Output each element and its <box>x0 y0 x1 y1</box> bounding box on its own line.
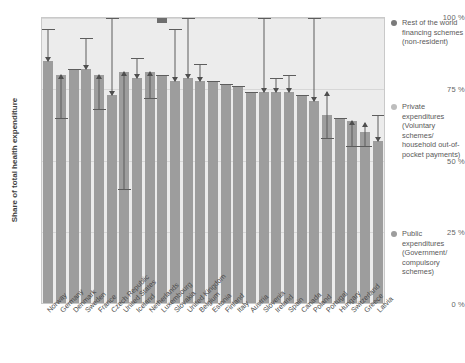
marker-arrowhead-up <box>362 122 368 127</box>
chart-root: 100 % 75 % 50 % 25 % 0 % Share of total … <box>0 0 465 363</box>
marker-arrowhead-up <box>147 71 153 76</box>
marker-cap <box>144 98 157 99</box>
marker-cap <box>68 69 81 70</box>
marker-cap <box>207 81 220 82</box>
marker-arrowhead-up <box>349 120 355 125</box>
bar-latvia[interactable] <box>373 141 383 303</box>
marker-cap <box>232 86 245 87</box>
legend-item-1[interactable]: Private expenditures (Voluntary schemes/… <box>391 102 465 160</box>
marker-cap <box>296 95 309 96</box>
bar-hungary[interactable] <box>335 118 345 303</box>
bar-finland[interactable] <box>221 84 231 303</box>
marker-arrowhead-down <box>185 74 191 79</box>
marker-arrowhead-up <box>121 71 127 76</box>
legend-swatch-icon <box>391 231 397 237</box>
bar-iceland[interactable] <box>132 78 142 303</box>
marker-cap <box>106 18 119 19</box>
marker-cap <box>182 18 195 19</box>
bar-canada[interactable] <box>297 95 307 303</box>
bar-sweden[interactable] <box>81 69 91 303</box>
marker-stem <box>263 18 264 92</box>
marker-cap <box>42 29 55 30</box>
bar-estonia[interactable] <box>208 81 218 303</box>
marker-arrowhead-down <box>261 88 267 93</box>
marker-arrowhead-down <box>109 91 115 96</box>
bar-switzerland[interactable] <box>347 121 357 303</box>
marker-cap <box>321 138 334 139</box>
marker-cap <box>80 38 93 39</box>
marker-arrowhead-down <box>311 97 317 102</box>
legend-swatch-icon <box>391 104 397 110</box>
marker-cap <box>346 146 359 147</box>
bar-united-kingdom[interactable] <box>183 78 193 303</box>
marker-stem <box>187 18 188 78</box>
marker-arrowhead-down <box>375 137 381 142</box>
legend-label: Private expenditures (Voluntary schemes/… <box>402 102 465 160</box>
marker-cap <box>55 118 68 119</box>
marker-cap <box>131 58 144 59</box>
marker-stem <box>61 75 62 118</box>
bar-poland[interactable] <box>309 101 319 303</box>
rest-of-world-segment-luxembourg <box>157 18 167 23</box>
marker-arrowhead-down <box>134 74 140 79</box>
gridline-100 <box>42 18 384 19</box>
marker-cap <box>118 189 131 190</box>
legend-label: Public expenditures (Government/ compuls… <box>402 229 465 277</box>
bar-czech-republic[interactable] <box>107 95 117 303</box>
bar-austria[interactable] <box>246 92 256 303</box>
marker-cap <box>372 115 384 116</box>
marker-cap <box>270 78 283 79</box>
y-tick-75: 75 % <box>429 85 465 94</box>
bar-slovenia[interactable] <box>259 92 269 303</box>
marker-stem <box>175 29 176 80</box>
marker-arrowhead-down <box>197 77 203 82</box>
bar-norway[interactable] <box>43 61 53 303</box>
legend-swatch-icon <box>391 20 397 26</box>
plot-inner <box>42 18 384 303</box>
bar-spain[interactable] <box>284 92 294 303</box>
marker-cap <box>220 84 233 85</box>
legend-item-2[interactable]: Public expenditures (Government/ compuls… <box>391 229 465 277</box>
marker-arrowhead-down <box>83 65 89 70</box>
marker-arrowhead-up <box>58 74 64 79</box>
bar-denmark[interactable] <box>69 69 79 303</box>
bar-italy[interactable] <box>233 86 243 303</box>
legend-item-0[interactable]: Rest of the world financing schemes (non… <box>391 18 465 47</box>
marker-stem <box>124 72 125 189</box>
bar-belgium[interactable] <box>195 81 205 303</box>
y-axis-title-wrap: Share of total health expenditure <box>14 0 28 363</box>
bar-portugal[interactable] <box>322 115 332 303</box>
plot-area <box>41 17 385 304</box>
marker-cap <box>169 29 182 30</box>
bar-slovakia[interactable] <box>170 81 180 303</box>
marker-arrowhead-up <box>324 91 330 96</box>
marker-cap <box>283 75 296 76</box>
marker-cap <box>245 92 258 93</box>
marker-stem <box>314 18 315 101</box>
y-axis-title: Share of total health expenditure <box>10 80 19 240</box>
bar-greece[interactable] <box>360 132 370 303</box>
marker-arrowhead-down <box>45 57 51 62</box>
legend-label: Rest of the world financing schemes (non… <box>402 18 465 47</box>
marker-cap <box>359 146 372 147</box>
marker-stem <box>111 18 112 95</box>
bar-netherlands[interactable] <box>145 72 155 303</box>
marker-stem <box>327 92 328 138</box>
marker-cap <box>93 109 106 110</box>
marker-cap <box>156 75 169 76</box>
marker-cap <box>258 18 271 19</box>
marker-arrowhead-down <box>273 88 279 93</box>
marker-arrowhead-down <box>286 88 292 93</box>
marker-arrowhead-down <box>172 77 178 82</box>
marker-arrowhead-up <box>96 74 102 79</box>
bar-ireland[interactable] <box>271 92 281 303</box>
bar-luxembourg[interactable] <box>157 75 167 303</box>
marker-cap <box>308 18 321 19</box>
marker-cap <box>194 64 207 65</box>
marker-stem <box>99 75 100 109</box>
y-tick-0: 0 % <box>429 300 465 309</box>
marker-cap <box>334 118 347 119</box>
